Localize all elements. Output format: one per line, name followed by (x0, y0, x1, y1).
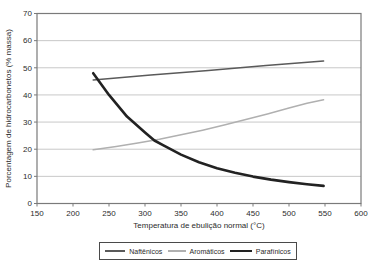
x-tick-label-400: 400 (210, 209, 224, 218)
legend-item-parafínicos: Parafínicos (230, 248, 291, 255)
y-axis-title: Porcentagem de hidrocarbonetos (% massa) (4, 29, 13, 188)
legend-label-aromáticos: Aromáticos (190, 248, 225, 255)
legend-item-aromáticos: Aromáticos (168, 248, 225, 255)
legend-label-parafínicos: Parafínicos (256, 248, 291, 255)
x-tick-label-150: 150 (30, 209, 44, 218)
legend-line-sample-parafínicos (230, 250, 252, 253)
y-tick-label-10: 10 (23, 172, 32, 181)
y-tick-label-60: 60 (23, 36, 32, 45)
x-tick-label-600: 600 (354, 209, 368, 218)
y-tick-label-30: 30 (23, 118, 32, 127)
x-tick-label-500: 500 (282, 209, 296, 218)
x-tick-label-200: 200 (66, 209, 80, 218)
plot-frame (37, 14, 361, 204)
x-tick-label-300: 300 (138, 209, 152, 218)
y-tick-label-40: 40 (23, 91, 32, 100)
legend-item-naftênicos: Naftênicos (105, 248, 162, 255)
x-tick-label-350: 350 (174, 209, 188, 218)
plot-frame-group (37, 14, 361, 204)
legend-line-sample-naftênicos (105, 250, 125, 252)
line-chart-figure: 1502002503003504004505005506000102030405… (0, 0, 374, 269)
y-tick-label-20: 20 (23, 145, 32, 154)
y-tick-label-0: 0 (28, 199, 33, 208)
y-tick-label-50: 50 (23, 64, 32, 73)
axis-ticks-group (34, 14, 361, 207)
legend-box: NaftênicosAromáticosParafínicos (99, 242, 297, 260)
legend-label-naftênicos: Naftênicos (129, 248, 162, 255)
series-line-aromáticos (93, 100, 323, 150)
gridlines-group (37, 41, 361, 177)
y-tick-label-70: 70 (23, 9, 32, 18)
x-tick-label-250: 250 (102, 209, 116, 218)
series-lines-group (93, 61, 323, 186)
series-line-naftênicos (93, 61, 323, 80)
x-axis-title: Temperatura de ebulição normal (°C) (133, 221, 265, 230)
x-tick-label-550: 550 (318, 209, 332, 218)
legend-line-sample-aromáticos (168, 250, 186, 252)
x-tick-label-450: 450 (246, 209, 260, 218)
chart-canvas: 1502002503003504004505005506000102030405… (0, 0, 374, 269)
